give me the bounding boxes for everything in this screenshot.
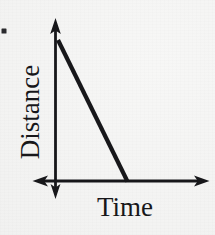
data-line-distance-vs-time: [58, 40, 128, 182]
x-axis-label: Time: [97, 194, 153, 221]
distance-time-graph-figure: Distance Time: [0, 0, 215, 235]
y-axis-label: Distance: [17, 65, 44, 159]
bullet-dot-icon: [2, 29, 7, 34]
